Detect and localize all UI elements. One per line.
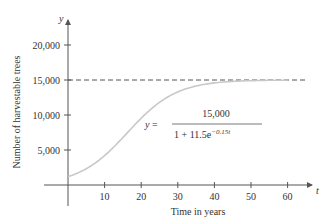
x-tick-label: 60: [283, 191, 293, 202]
equation-numerator: 15,000: [202, 108, 230, 119]
y-tick-label: 15,000: [33, 75, 61, 86]
equation-annotation: y = 15,000 1 + 11.5e−0.15t: [144, 108, 262, 140]
y-axis-label: Number of harvestable trees: [11, 55, 22, 168]
x-tick-label: 20: [136, 191, 146, 202]
x-tick-label: 10: [100, 191, 110, 202]
y-axis-var: y: [58, 13, 64, 24]
logistic-growth-chart: y t 102030405060 5,00010,00015,00020,000…: [0, 0, 332, 223]
x-tick-label: 40: [209, 191, 219, 202]
y-tick-label: 10,000: [33, 110, 61, 121]
x-axis-label: Time in years: [171, 206, 226, 217]
y-tick-label: 5,000: [38, 145, 61, 156]
equation-denominator: 1 + 11.5e−0.15t: [174, 128, 231, 140]
x-axis-var: t: [316, 185, 319, 196]
y-tick-label: 20,000: [33, 40, 61, 51]
y-ticks: 5,00010,00015,00020,000: [33, 40, 72, 156]
x-tick-label: 30: [173, 191, 183, 202]
x-tick-label: 50: [246, 191, 256, 202]
svg-text:y =: y =: [144, 119, 158, 130]
